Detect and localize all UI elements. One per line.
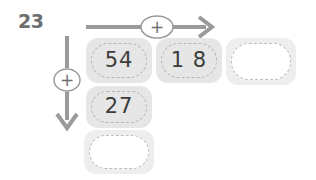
grid-cell-blank[interactable] (226, 38, 296, 85)
grid-cell[interactable]: 54 (86, 38, 152, 83)
grid-cell-value: 27 (105, 96, 134, 117)
grid-cell[interactable]: 1 8 (156, 38, 222, 83)
grid-cell-value: 54 (105, 50, 134, 71)
grid-cell-blank[interactable] (84, 130, 154, 174)
grid-cell-value: 1 8 (171, 50, 207, 71)
arrow-right-icon: + (84, 14, 220, 40)
plus-icon: + (150, 17, 164, 37)
worksheet-canvas: 23 + + 54 1 8 27 (0, 0, 316, 180)
problem-number-label: 23 (18, 12, 43, 31)
plus-icon: + (60, 70, 74, 90)
arrow-down-icon: + (52, 34, 82, 134)
grid-cell[interactable]: 27 (86, 86, 152, 128)
